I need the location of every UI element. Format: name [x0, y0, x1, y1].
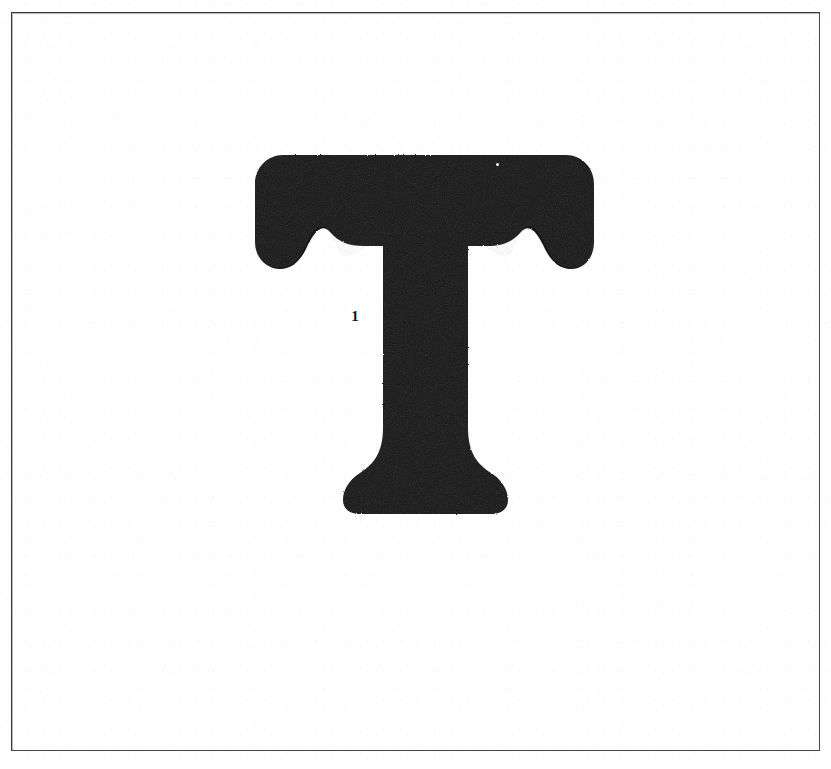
specimen-description: Capital letter T, slab-serif / Clarendon…	[0, 0, 1, 1]
scanned-page: 1 T Capital letter T, slab-serif / Clare…	[0, 0, 831, 769]
specimen-character: T	[0, 0, 1, 1]
document-title: Letter Specimen Plate	[0, 0, 1, 1]
stem-mark-label: 1	[349, 307, 361, 325]
ink-dropout-speck	[496, 163, 499, 166]
border-rule	[11, 12, 820, 751]
